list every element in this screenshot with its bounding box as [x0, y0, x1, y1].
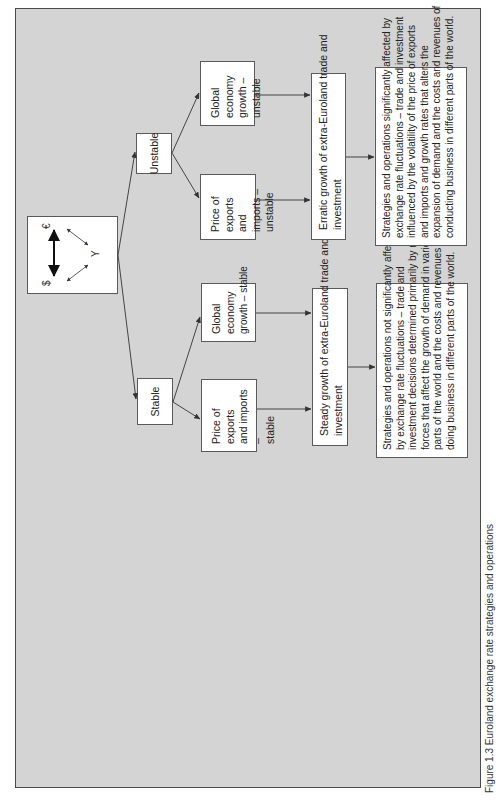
unstable-label: Unstable: [148, 133, 161, 174]
erratic-growth-line-2: investment: [331, 81, 345, 230]
unstable-outcome-line-1: Strategies and operations significantly …: [381, 75, 394, 238]
stable-outcome-line-4: forces that affect the growth of demand …: [420, 291, 433, 450]
stable-outcome-node: Strategies and operations not significan…: [376, 283, 468, 458]
price-stable-line-1: Price of exports: [210, 387, 237, 444]
euro-symbol: €: [40, 223, 53, 229]
global-unstable-line-2: growth –: [236, 69, 250, 118]
stable-node: Stable: [137, 378, 173, 425]
yen-symbol: Y: [89, 250, 102, 257]
currency-relationship-box: $ € Y: [27, 216, 118, 294]
price-stable-line-3: stable: [264, 387, 278, 444]
price-stable-line-2: and imports –: [237, 387, 264, 444]
price-unstable-line-2: and imports –: [236, 182, 263, 232]
steady-growth-line-2: investment: [332, 296, 346, 436]
erratic-growth-node: Erratic growth of extra-Euroland trade a…: [311, 73, 346, 240]
stable-outcome-line-3: investment decisions determined primaril…: [407, 291, 420, 450]
unstable-outcome-line-3: influenced by the volatility of the pric…: [406, 75, 419, 238]
unstable-outcome-line-2: exchange rate fluctuations – trade and i…: [394, 75, 407, 238]
stable-outcome-line-6: doing business in different parts of the…: [445, 291, 458, 450]
figure-caption: Figure 1.3 Euroland exchange rate strate…: [484, 524, 495, 793]
price-unstable-line-3: unstable: [263, 182, 277, 232]
global-unstable-line-1: Global economy: [209, 69, 236, 118]
global-stable-line-1: Global: [210, 291, 224, 334]
global-unstable-line-3: unstable: [250, 69, 264, 118]
global-stable-node: Global economy growth – stable: [201, 283, 256, 342]
unstable-outcome-line-5: expansion of demand and the costs and re…: [431, 75, 444, 238]
price-unstable-node: Price of exports and imports – unstable: [200, 174, 256, 240]
steady-growth-line-1: Steady growth of extra-Euroland trade an…: [318, 296, 332, 436]
stable-outcome-line-5: parts of the world and the costs and rev…: [432, 291, 445, 450]
global-unstable-node: Global economy growth – unstable: [200, 61, 255, 126]
diagram-canvas: $ € Y Stable Unstable Price of exports a…: [0, 0, 501, 803]
steady-growth-node: Steady growth of extra-Euroland trade an…: [312, 288, 348, 446]
stable-outcome-line-2: by exchange rate fluctuations – trade an…: [395, 291, 408, 450]
unstable-outcome-line-6: conducting business in different parts o…: [444, 75, 457, 238]
global-stable-line-2: economy: [224, 291, 238, 334]
stable-label: Stable: [149, 387, 162, 417]
price-stable-node: Price of exports and imports – stable: [201, 379, 257, 452]
stable-outcome-line-1: Strategies and operations not significan…: [382, 291, 395, 450]
erratic-growth-line-1: Erratic growth of extra-Euroland trade a…: [317, 81, 331, 230]
dollar-symbol: $: [40, 280, 53, 286]
unstable-node: Unstable: [136, 133, 172, 174]
unstable-outcome-line-4: and imports and growth rates that alters…: [419, 75, 432, 238]
price-unstable-line-1: Price of exports: [209, 182, 236, 232]
unstable-outcome-node: Strategies and operations significantly …: [375, 67, 467, 246]
global-stable-line-3: growth – stable: [237, 291, 251, 334]
